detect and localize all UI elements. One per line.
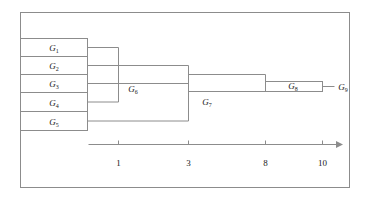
leaf-label-G1: G1 bbox=[49, 43, 59, 54]
merge-bracket-level-1 bbox=[88, 48, 119, 103]
axis-tick-label-8: 8 bbox=[263, 158, 268, 168]
axis-tick-label-3: 3 bbox=[186, 158, 191, 168]
cluster-box-G6 bbox=[88, 66, 189, 122]
axis-arrow-icon bbox=[336, 141, 343, 148]
leaf-label-G3: G3 bbox=[49, 79, 59, 90]
cluster-box-G7 bbox=[189, 75, 266, 92]
cluster-label-G7: G7 bbox=[202, 97, 212, 108]
dendrogram-canvas: G1 G2 G3 G4 G5 G6 bbox=[0, 0, 367, 200]
cluster-label-G8: G8 bbox=[288, 81, 298, 92]
dendrogram-figure: G1 G2 G3 G4 G5 G6 bbox=[0, 0, 367, 200]
cluster-label-G9: G9 bbox=[338, 82, 348, 93]
axis-tick-label-1: 1 bbox=[116, 158, 121, 168]
cluster-label-G6: G6 bbox=[128, 84, 138, 95]
leaf-label-G4: G4 bbox=[49, 98, 59, 109]
leaf-label-G5: G5 bbox=[49, 117, 59, 128]
axis-tick-label-10: 10 bbox=[318, 158, 328, 168]
distance-axis: 1 3 8 10 bbox=[89, 141, 344, 169]
leaf-label-G2: G2 bbox=[49, 61, 59, 72]
